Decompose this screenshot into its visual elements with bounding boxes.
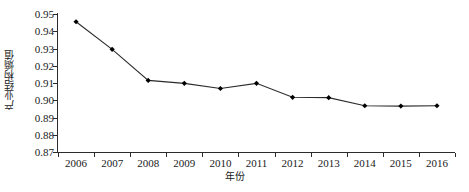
y-axis-tick-label: 0.95 (35, 9, 54, 20)
y-axis-tick-label: 0.94 (35, 26, 54, 37)
x-axis-title-text: 年份 (225, 171, 245, 182)
y-axis-tick-mark (53, 83, 57, 84)
x-axis-tick-mark (383, 153, 384, 157)
x-axis-tick-label: 2009 (173, 158, 195, 169)
x-axis-tick-label: 2012 (282, 158, 304, 169)
y-axis-tick-label: 0.90 (35, 95, 54, 106)
x-axis-tick-label: 2006 (65, 158, 87, 169)
data-point-marker (434, 103, 439, 108)
data-line (76, 22, 437, 106)
x-axis-tick-label: 2014 (354, 158, 376, 169)
y-axis-tick-label: 0.93 (35, 43, 54, 54)
data-point-marker (362, 103, 367, 108)
y-axis-tick-mark (53, 135, 57, 136)
y-axis-tick-mark (53, 100, 57, 101)
x-axis-tick-mark (419, 153, 420, 157)
y-axis-tick-label: 0.91 (35, 78, 54, 89)
y-axis-tick-labels: 0.950.940.930.920.910.900.890.880.87 (16, 0, 56, 160)
y-axis-tick-label: 0.89 (35, 112, 54, 123)
x-axis-tick-mark (58, 153, 59, 157)
x-axis-line (57, 152, 455, 153)
y-axis-tick-label: 0.87 (35, 147, 54, 158)
x-axis-title: 年份 (0, 172, 469, 182)
y-axis-tick-mark (53, 66, 57, 67)
y-axis-tick-mark (53, 14, 57, 15)
y-axis-title-text: 产业结构熵值 (2, 50, 17, 110)
y-axis-tick-mark (53, 31, 57, 32)
x-axis-tick-mark (455, 153, 456, 157)
x-axis-tick-label: 2013 (318, 158, 340, 169)
y-axis-tick-mark (53, 49, 57, 50)
x-axis-tick-label: 2011 (246, 158, 268, 169)
data-point-marker (218, 86, 223, 91)
x-axis-tick-mark (275, 153, 276, 157)
x-axis-tick-label: 2007 (101, 158, 123, 169)
x-axis-tick-label: 2008 (137, 158, 159, 169)
data-series-svg (58, 14, 455, 152)
x-axis-tick-mark (347, 153, 348, 157)
x-axis-tick-label: 2016 (426, 158, 448, 169)
x-axis-tick-mark (311, 153, 312, 157)
x-axis-tick-mark (94, 153, 95, 157)
x-axis-tick-label: 2015 (390, 158, 412, 169)
data-point-marker (182, 81, 187, 86)
data-point-marker (254, 81, 259, 86)
x-axis-tick-mark (202, 153, 203, 157)
data-point-marker (326, 95, 331, 100)
line-chart: 产业结构熵值 0.950.940.930.920.910.900.890.880… (0, 0, 469, 192)
x-axis-tick-mark (166, 153, 167, 157)
x-axis-tick-mark (238, 153, 239, 157)
x-axis-tick-label: 2010 (209, 158, 231, 169)
data-point-marker (398, 104, 403, 109)
y-axis-tick-mark (53, 152, 57, 153)
plot-area (58, 14, 455, 152)
y-axis-tick-label: 0.88 (35, 129, 54, 140)
x-axis-tick-mark (130, 153, 131, 157)
y-axis-tick-mark (53, 118, 57, 119)
data-point-marker (290, 95, 295, 100)
y-axis-tick-label: 0.92 (35, 60, 54, 71)
